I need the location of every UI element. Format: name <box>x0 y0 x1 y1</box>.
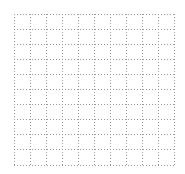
dotted-grid <box>0 0 185 174</box>
grid-canvas <box>0 0 185 174</box>
